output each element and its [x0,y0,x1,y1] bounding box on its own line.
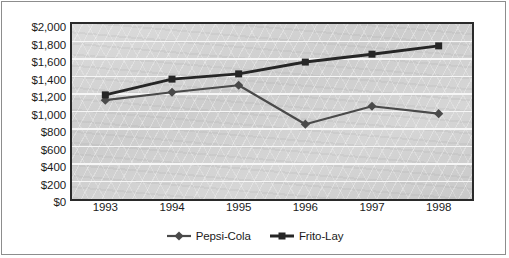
y-axis-tick-label: $2,000 [0,22,66,33]
legend-item-frito-lay[interactable]: Frito-Lay [269,230,343,242]
plot-area [70,22,474,201]
x-axis-tick-label: 1993 [93,201,118,213]
square-marker-icon [269,230,295,242]
x-axis-tick-label: 1997 [359,201,384,213]
y-axis-tick-label: $200 [0,180,66,191]
x-axis: 199319941995199619971998 [70,201,474,219]
data-point-frito-lay [435,42,442,49]
data-point-frito-lay [369,51,376,58]
y-axis-tick-label: $1,600 [0,57,66,68]
x-axis-tick-label: 1998 [426,201,451,213]
x-axis-tick-label: 1996 [293,201,318,213]
data-point-frito-lay [169,76,176,83]
legend-item-pepsi-cola[interactable]: Pepsi-Cola [166,230,251,242]
y-axis-tick-label: $1,400 [0,75,66,86]
y-axis-tick-label: $1,000 [0,110,66,121]
y-axis-tick-label: $1,200 [0,92,66,103]
data-point-pepsi-cola [167,88,176,97]
diamond-marker-icon [166,230,192,242]
legend-label: Pepsi-Cola [196,230,251,242]
y-axis-tick-label: $600 [0,145,66,156]
data-point-frito-lay [302,59,309,66]
y-axis-tick-label: $800 [0,127,66,138]
data-point-pepsi-cola [234,81,243,90]
legend-label: Frito-Lay [299,230,343,242]
chart-legend: Pepsi-ColaFrito-Lay [0,230,509,242]
square-marker [278,233,285,240]
chart-figure: $2,000$1,800$1,600$1,400$1,200$1,000$800… [0,0,509,258]
data-point-frito-lay [102,91,109,98]
x-axis-tick-label: 1995 [226,201,251,213]
series-layer [72,24,472,199]
data-point-frito-lay [235,70,242,77]
x-axis-tick-label: 1994 [159,201,184,213]
y-axis-tick-label: $400 [0,162,66,173]
series-line-frito-lay [105,46,438,95]
y-axis: $2,000$1,800$1,600$1,400$1,200$1,000$800… [0,14,66,204]
series-line-pepsi-cola [105,85,438,124]
diamond-marker [174,231,183,240]
y-axis-tick-label: $0 [0,197,66,208]
data-point-pepsi-cola [367,102,376,111]
data-point-pepsi-cola [301,120,310,129]
y-axis-tick-label: $1,800 [0,40,66,51]
data-point-pepsi-cola [434,109,443,118]
